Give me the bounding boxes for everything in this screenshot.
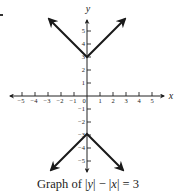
x-tick-label: −2	[57, 97, 64, 104]
y-tick-label: 1	[82, 79, 85, 86]
x-tick-label: −1	[70, 97, 77, 104]
y-axis: 1 2 3 4 5 −1 −2 −3 −4 −5 y	[78, 3, 91, 172]
x-tick-label: 4	[137, 97, 141, 104]
caption-text: | = 3	[117, 177, 139, 191]
x-tick-label: 0	[82, 97, 85, 104]
y-axis-label: y	[85, 3, 91, 14]
y-tick-label: 5	[82, 27, 85, 34]
y-tick-label: −4	[78, 144, 86, 151]
x-axis: −5 −4 −3 −2 −1 0 1 2 3 4 5 x	[10, 90, 174, 104]
x-tick-label: −3	[44, 97, 51, 104]
y-tick-label: −1	[78, 105, 85, 112]
y-tick-label: −2	[78, 118, 85, 125]
x-tick-label: −4	[31, 97, 39, 104]
y-tick-label: 4	[82, 40, 86, 47]
x-tick-label: 5	[150, 97, 153, 104]
x-tick-label: 3	[124, 97, 127, 104]
x-tick-label: 2	[111, 97, 114, 104]
x-axis-label: x	[168, 90, 174, 101]
graph-caption: Graph of |y| − |x| = 3	[0, 177, 176, 192]
x-tick-label: −5	[18, 97, 25, 104]
caption-text: Graph of |	[37, 177, 87, 191]
y-tick-label: −5	[78, 157, 85, 164]
coordinate-graph: −5 −4 −3 −2 −1 0 1 2 3 4 5 x	[0, 0, 176, 196]
x-tick-label: 1	[98, 97, 101, 104]
caption-text: | − |	[93, 177, 111, 191]
y-tick-label: 2	[82, 66, 85, 73]
x-axis-tick-labels: −5 −4 −3 −2 −1 0 1 2 3 4 5	[18, 97, 154, 104]
